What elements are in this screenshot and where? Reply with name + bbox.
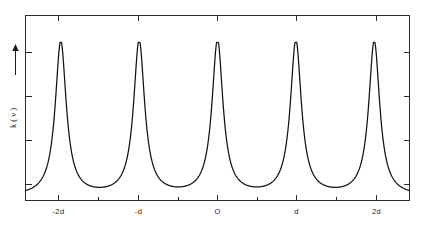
- x-tick-label-2: O: [214, 207, 220, 216]
- y-axis-title: k ( ν ): [8, 108, 18, 128]
- x-tick-label-0: -2d: [52, 207, 64, 216]
- plot-figure: k ( ν ) -2d -d O d 2d: [0, 0, 430, 235]
- x-tick-label-3: d: [294, 207, 299, 216]
- x-tick-label-4: 2d: [372, 207, 381, 216]
- x-tick-label-1: -d: [135, 207, 142, 216]
- figure-background: [0, 0, 430, 235]
